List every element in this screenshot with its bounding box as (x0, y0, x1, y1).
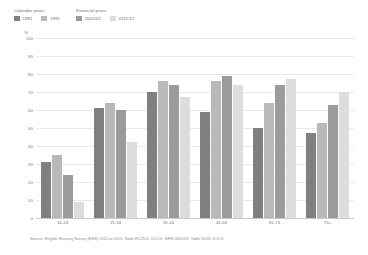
bar-1991-16-24[interactable] (52, 155, 62, 218)
bars-layer (36, 38, 354, 218)
bar-1981-35-44[interactable] (147, 92, 157, 218)
bar-2001/02-35-44[interactable] (169, 85, 179, 218)
legend-group-financial-years: Financial years 2001/02 2011/12 (76, 8, 143, 21)
legend-items-calendar: 1981 1991 (14, 16, 69, 21)
bar-2011/12-75+[interactable] (339, 92, 349, 218)
y-tick-label-60: 60 (28, 108, 33, 113)
bar-2011/12-16-24[interactable] (74, 202, 84, 218)
legend-group-title-calendar: Calendar years (14, 8, 69, 14)
legend-item-1981[interactable]: 1981 (14, 16, 32, 21)
bar-group-25-34 (89, 38, 142, 218)
legend-label-1981: 1981 (23, 16, 33, 21)
gridline-0: 0 (36, 218, 354, 219)
y-tick-label-50: 50 (28, 126, 33, 131)
bar-2011/12-25-34[interactable] (127, 142, 137, 218)
chart-legend: Calendar years 1981 1991 Financial years… (14, 8, 344, 28)
legend-group-title-financial: Financial years (76, 8, 143, 14)
x-axis-labels: 16-2425-3435-4445-6465-7475+ (36, 220, 354, 225)
bar-1991-65-74[interactable] (264, 103, 274, 218)
x-axis-label-45-64: 45-64 (195, 220, 248, 225)
bar-1981-45-64[interactable] (200, 112, 210, 218)
x-axis-label-25-34: 25-34 (89, 220, 142, 225)
x-axis-label-35-44: 35-44 (142, 220, 195, 225)
legend-group-calendar-years: Calendar years 1981 1991 (14, 8, 69, 21)
legend-item-1991[interactable]: 1991 (41, 16, 59, 21)
source-note: Source: English Housing Survey (EHS) 201… (30, 236, 360, 241)
bar-2011/12-35-44[interactable] (180, 97, 190, 218)
x-axis-label-75+: 75+ (301, 220, 354, 225)
legend-item-2001-02[interactable]: 2001/02 (76, 16, 101, 21)
bar-2011/12-45-64[interactable] (233, 85, 243, 218)
bar-group-35-44 (142, 38, 195, 218)
bar-2011/12-65-74[interactable] (286, 79, 296, 218)
bar-1981-75+[interactable] (306, 133, 316, 218)
legend-label-1991: 1991 (50, 16, 60, 21)
bar-2001/02-25-34[interactable] (116, 110, 126, 218)
legend-swatch-1981 (14, 16, 20, 21)
bar-2001/02-75+[interactable] (328, 105, 338, 218)
bar-group-75+ (301, 38, 354, 218)
bar-1981-25-34[interactable] (94, 108, 104, 218)
y-tick-label-0: 0 (31, 216, 33, 221)
legend-swatch-1991 (41, 16, 47, 21)
bar-group-16-24 (36, 38, 89, 218)
bar-2001/02-65-74[interactable] (275, 85, 285, 218)
x-axis-label-65-74: 65-74 (248, 220, 301, 225)
y-tick-label-70: 70 (28, 90, 33, 95)
legend-swatch-2001-02 (76, 16, 82, 21)
bar-1981-16-24[interactable] (41, 162, 51, 218)
y-tick-label-100: 100 (26, 36, 33, 41)
y-tick-label-10: 10 (28, 198, 33, 203)
x-axis-label-16-24: 16-24 (36, 220, 89, 225)
y-tick-label-20: 20 (28, 180, 33, 185)
bar-1991-35-44[interactable] (158, 81, 168, 218)
legend-label-2001-02: 2001/02 (85, 16, 101, 21)
plot-area: 1009080706050403020100 (36, 38, 354, 218)
bar-1991-25-34[interactable] (105, 103, 115, 218)
y-tick-label-80: 80 (28, 72, 33, 77)
bar-1981-65-74[interactable] (253, 128, 263, 218)
bar-1991-75+[interactable] (317, 123, 327, 218)
legend-label-2011-12: 2011/12 (118, 16, 134, 21)
legend-swatch-2011-12 (110, 16, 116, 21)
y-tick-label-40: 40 (28, 144, 33, 149)
bar-group-65-74 (248, 38, 301, 218)
bar-2001/02-16-24[interactable] (63, 175, 73, 218)
y-tick-label-90: 90 (28, 54, 33, 59)
bar-2001/02-45-64[interactable] (222, 76, 232, 218)
y-tick-label-30: 30 (28, 162, 33, 167)
bar-group-45-64 (195, 38, 248, 218)
legend-item-2011-12[interactable]: 2011/12 (110, 16, 134, 21)
legend-items-financial: 2001/02 2011/12 (76, 16, 143, 21)
y-axis-unit-label: % (24, 30, 28, 35)
bar-1991-45-64[interactable] (211, 81, 221, 218)
bar-chart: Calendar years 1981 1991 Financial years… (0, 0, 368, 255)
